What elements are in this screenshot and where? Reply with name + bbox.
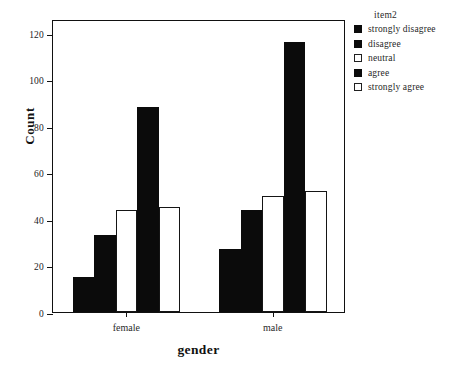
y-tick-label: 120 bbox=[29, 30, 44, 40]
bar bbox=[284, 42, 306, 312]
bar bbox=[219, 249, 241, 312]
plot-area: 020406080100120 femalemale bbox=[52, 20, 345, 313]
legend-item-label: strongly disagree bbox=[368, 24, 436, 34]
x-tick-label: female bbox=[113, 322, 140, 333]
legend-swatch-icon bbox=[354, 83, 362, 91]
bar-chart: 020406080100120 femalemale Count gender … bbox=[0, 0, 470, 375]
y-tick-mark bbox=[47, 174, 53, 175]
legend-item: neutral bbox=[354, 52, 470, 64]
x-tick-mark bbox=[273, 312, 274, 317]
y-tick-mark bbox=[47, 314, 53, 315]
y-tick-label: 0 bbox=[39, 309, 44, 319]
y-tick-mark bbox=[47, 221, 53, 222]
legend-item: strongly agree bbox=[354, 81, 470, 93]
y-tick-mark bbox=[47, 128, 53, 129]
y-tick-label: 40 bbox=[34, 216, 44, 226]
legend: item2 strongly disagreedisagreeneutralag… bbox=[354, 10, 470, 96]
legend-item: agree bbox=[354, 67, 470, 79]
legend-item-label: neutral bbox=[368, 53, 395, 63]
bar bbox=[159, 207, 181, 312]
legend-items: strongly disagreedisagreeneutralagreestr… bbox=[354, 23, 470, 93]
y-tick-label: 20 bbox=[34, 262, 44, 272]
y-tick-mark bbox=[47, 81, 53, 82]
bar bbox=[241, 210, 263, 312]
legend-title: item2 bbox=[374, 10, 470, 20]
legend-item: disagree bbox=[354, 38, 470, 50]
bar bbox=[116, 210, 138, 312]
legend-swatch-icon bbox=[354, 54, 362, 62]
legend-swatch-icon bbox=[354, 69, 362, 77]
bar bbox=[137, 107, 159, 312]
bar bbox=[305, 191, 327, 312]
legend-item-label: agree bbox=[368, 68, 389, 78]
x-tick-label: male bbox=[263, 322, 282, 333]
bar bbox=[94, 235, 116, 312]
y-tick-mark bbox=[47, 267, 53, 268]
legend-swatch-icon bbox=[354, 40, 362, 48]
y-tick-mark bbox=[47, 35, 53, 36]
legend-item-label: strongly agree bbox=[368, 82, 424, 92]
bar bbox=[73, 277, 95, 312]
legend-item-label: disagree bbox=[368, 39, 401, 49]
x-tick-mark bbox=[126, 312, 127, 317]
legend-swatch-icon bbox=[354, 25, 362, 33]
bar bbox=[262, 196, 284, 312]
legend-item: strongly disagree bbox=[354, 23, 470, 35]
y-axis-title: Count bbox=[22, 66, 38, 186]
x-axis-title: gender bbox=[52, 342, 345, 358]
